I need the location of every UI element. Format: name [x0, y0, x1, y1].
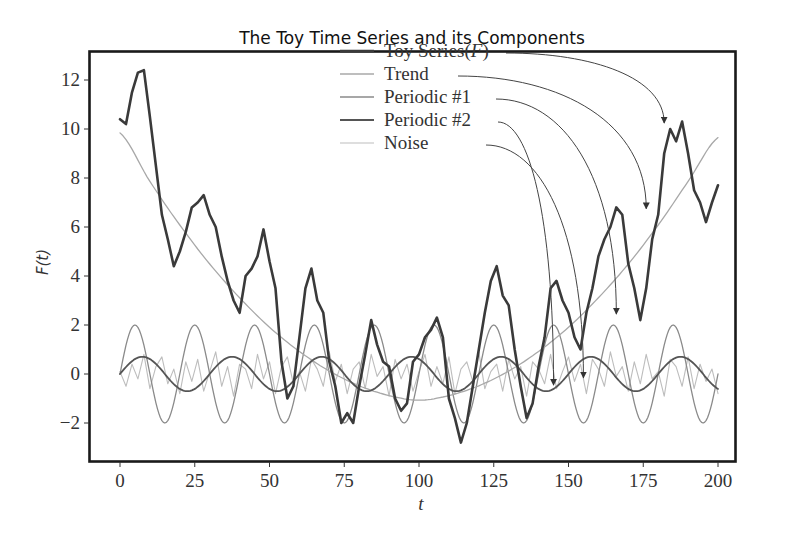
chart-figure: The Toy Time Series and its Components 0…: [0, 0, 786, 547]
legend-label: Trend: [384, 63, 429, 84]
y-tick-label: −2: [60, 412, 80, 433]
x-tick-label: 150: [554, 470, 583, 491]
y-tick-label: 8: [71, 167, 81, 188]
x-tick-label: 100: [405, 470, 434, 491]
x-tick-label: 0: [115, 470, 125, 491]
x-axis-label: t: [418, 493, 424, 514]
legend-label: Periodic #1: [384, 86, 471, 107]
legend: Toy Series(F)TrendPeriodic #1Periodic #2…: [340, 40, 489, 153]
annotation-arrow: [506, 53, 664, 123]
legend-item: Periodic #2: [340, 109, 471, 130]
y-tick-label: 10: [61, 118, 80, 139]
legend-label: Toy Series(F): [384, 40, 489, 62]
annotation-arrow: [458, 76, 646, 209]
y-tick-label: 0: [71, 363, 81, 384]
legend-label: Noise: [384, 132, 428, 153]
legend-label: Periodic #2: [384, 109, 471, 130]
x-tick-label: 50: [260, 470, 279, 491]
y-axis-label-text: F(t): [34, 249, 52, 275]
y-axis-label: F(t): [34, 249, 52, 275]
x-tick-label: 25: [185, 470, 204, 491]
y-axis: −2024681012: [60, 69, 89, 433]
legend-item: Trend: [340, 63, 429, 84]
x-tick-label: 75: [335, 470, 354, 491]
x-axis: 0255075100125150175200: [115, 462, 732, 491]
y-tick-label: 2: [71, 314, 81, 335]
y-tick-label: 12: [61, 69, 80, 90]
legend-item: Noise: [340, 132, 428, 153]
x-tick-label: 125: [480, 470, 509, 491]
y-tick-label: 6: [71, 216, 81, 237]
x-tick-label: 200: [704, 470, 733, 491]
x-tick-label: 175: [629, 470, 658, 491]
legend-item: Periodic #1: [340, 86, 471, 107]
annotation-arrows: [458, 53, 664, 385]
y-tick-label: 4: [71, 265, 81, 286]
